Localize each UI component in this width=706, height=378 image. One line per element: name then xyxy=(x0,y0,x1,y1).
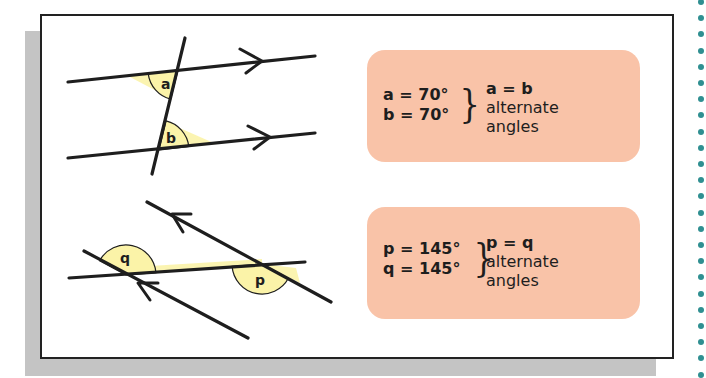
dotted-border-decoration xyxy=(698,0,704,376)
dot-icon xyxy=(698,48,704,54)
value-a: a = 70° xyxy=(383,85,449,105)
dot-icon xyxy=(698,96,704,102)
angle-label-b: b xyxy=(166,130,176,146)
dot-icon xyxy=(698,129,704,135)
value-b: b = 70° xyxy=(383,105,449,125)
dot-icon xyxy=(698,291,704,297)
angle-values: p = 145° q = 145° xyxy=(383,239,460,279)
brace-icon: } xyxy=(460,83,480,123)
rule-line1: alternate xyxy=(486,98,559,117)
rule-equation: p = q xyxy=(486,233,559,252)
dot-icon xyxy=(698,323,704,329)
dot-icon xyxy=(698,64,704,70)
dot-icon xyxy=(698,177,704,183)
dot-icon xyxy=(698,226,704,232)
rule-line1: alternate xyxy=(486,252,559,271)
top-diagram: a b xyxy=(68,38,315,174)
dot-icon xyxy=(698,0,704,5)
angle-label-p: p xyxy=(255,272,265,288)
dot-icon xyxy=(698,242,704,248)
dot-icon xyxy=(698,210,704,216)
dot-icon xyxy=(698,339,704,345)
rule-line2: angles xyxy=(486,271,559,290)
info-box-pq: p = 145° q = 145° } p = q alternate angl… xyxy=(367,207,640,319)
value-p: p = 145° xyxy=(383,239,460,259)
dot-icon xyxy=(698,355,704,361)
dot-icon xyxy=(698,274,704,280)
dot-icon xyxy=(698,31,704,37)
rule-text: p = q alternate angles xyxy=(486,233,559,290)
rule-line2: angles xyxy=(486,117,559,136)
parallel-line-1 xyxy=(68,56,315,82)
angle-values: a = 70° b = 70° xyxy=(383,85,449,125)
dot-icon xyxy=(698,258,704,264)
dot-icon xyxy=(698,372,704,378)
dot-icon xyxy=(698,161,704,167)
dot-icon xyxy=(698,193,704,199)
dot-icon xyxy=(698,15,704,21)
angle-label-a: a xyxy=(161,76,170,92)
value-q: q = 145° xyxy=(383,259,460,279)
rule-text: a = b alternate angles xyxy=(486,79,559,136)
angle-label-q: q xyxy=(120,250,130,266)
dot-icon xyxy=(698,307,704,313)
bottom-diagram: q p xyxy=(69,202,331,338)
transversal-line xyxy=(152,38,185,174)
dot-icon xyxy=(698,80,704,86)
dot-icon xyxy=(698,112,704,118)
dot-icon xyxy=(698,145,704,151)
info-box-ab: a = 70° b = 70° } a = b alternate angles xyxy=(367,50,640,162)
rule-equation: a = b xyxy=(486,79,559,98)
